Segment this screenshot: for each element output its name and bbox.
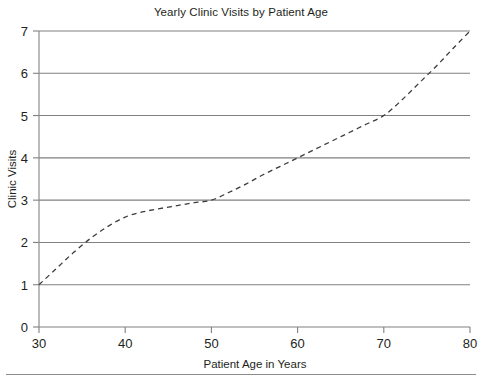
x-axis-title: Patient Age in Years [204,358,307,370]
x-tick-labels-group: 304050607080 [32,336,477,351]
plot-area: 01234567 304050607080 Clinic Visits Pati… [0,0,482,386]
x-tick-label-60: 60 [290,336,304,351]
x-tick-label-80: 80 [463,336,477,351]
y-tick-label-1: 1 [21,278,28,293]
footer-divider [6,374,476,375]
y-tick-label-4: 4 [21,151,28,166]
y-tick-label-3: 3 [21,193,28,208]
chart-figure: Yearly Clinic Visits by Patient Age 0123… [0,0,482,386]
y-tick-label-7: 7 [21,24,28,39]
x-tick-label-70: 70 [377,336,391,351]
y-tick-label-0: 0 [21,320,28,335]
y-tick-label-5: 5 [21,109,28,124]
y-tick-label-2: 2 [21,235,28,250]
y-axis-title: Clinic Visits [6,149,18,208]
y-tick-marks-group [33,31,39,327]
x-tick-label-30: 30 [32,336,46,351]
x-tick-label-50: 50 [204,336,218,351]
x-tick-marks-group [39,327,470,333]
x-tick-label-40: 40 [118,336,132,351]
y-tick-labels-group: 01234567 [21,24,28,335]
y-tick-label-6: 6 [21,66,28,81]
